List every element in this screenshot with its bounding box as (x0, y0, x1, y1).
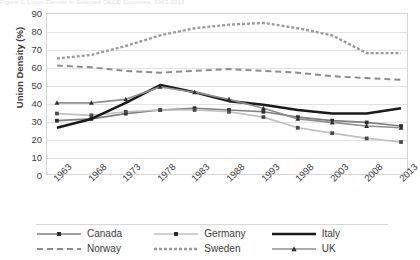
legend-label-canada: Canada (87, 228, 122, 239)
plot-area (46, 13, 408, 175)
y-tick-80: 80 (14, 26, 42, 37)
legend-swatch-germany (153, 228, 199, 240)
y-axis-tick-labels: 9080706050403020100 (14, 0, 42, 190)
marker-germany (330, 131, 334, 135)
y-tick-90: 90 (14, 8, 42, 19)
legend-swatch-sweden (153, 243, 199, 255)
chart-legend: CanadaGermanyItalyNorwaySwedenUK (36, 226, 388, 258)
marker-germany (296, 126, 300, 130)
legend-item-canada[interactable]: Canada (36, 226, 153, 241)
legend-row-2: NorwaySwedenUK (36, 241, 388, 256)
legend-item-germany[interactable]: Germany (153, 226, 270, 241)
series-sweden (57, 23, 401, 59)
legend-item-italy[interactable]: Italy (271, 226, 388, 241)
legend-swatch-italy (271, 228, 317, 240)
y-tick-40: 40 (14, 98, 42, 109)
marker-germany (89, 113, 93, 117)
marker-canada (262, 110, 266, 114)
y-tick-30: 30 (14, 116, 42, 127)
marker-germany (193, 108, 197, 112)
x-axis-tick-labels: 1963196819731978198319881993199820032008… (0, 176, 415, 220)
legend-row-1: CanadaGermanyItaly (36, 226, 388, 241)
legend-label-norway: Norway (87, 243, 121, 254)
series-norway (57, 66, 401, 80)
y-tick-60: 60 (14, 62, 42, 73)
marker-germany (262, 115, 266, 119)
y-tick-70: 70 (14, 44, 42, 55)
legend-label-uk: UK (322, 243, 336, 254)
legend-label-italy: Italy (322, 228, 340, 239)
legend-item-uk[interactable]: UK (271, 241, 388, 256)
legend-swatch-norway (36, 243, 82, 255)
marker-germany (227, 110, 231, 114)
legend-swatch-canada (36, 228, 82, 240)
series-line-sweden (57, 23, 401, 59)
legend-label-germany: Germany (204, 228, 245, 239)
y-tick-10: 10 (14, 152, 42, 163)
y-tick-50: 50 (14, 80, 42, 91)
legend-item-norway[interactable]: Norway (36, 241, 153, 256)
marker-germany (365, 137, 369, 141)
series-canvas (47, 14, 407, 174)
y-tick-20: 20 (14, 134, 42, 145)
series-line-norway (57, 66, 401, 80)
marker-canada (55, 119, 59, 123)
series-uk (55, 84, 404, 129)
marker-germany (124, 110, 128, 114)
legend-divider (36, 224, 388, 225)
marker-germany (158, 108, 162, 112)
marker-germany (399, 140, 403, 144)
legend-item-sweden[interactable]: Sweden (153, 241, 270, 256)
chart-title-sliver: Figure 1. Union Density in Selected OECD… (0, 0, 415, 5)
legend-swatch-uk (271, 243, 317, 255)
marker-germany (55, 112, 59, 116)
legend-label-sweden: Sweden (204, 243, 240, 254)
